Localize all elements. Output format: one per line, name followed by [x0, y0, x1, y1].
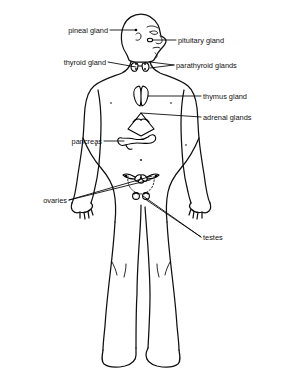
leader-parathyroid-fork	[150, 65, 174, 68]
label-pancreas: pancreas	[72, 137, 103, 146]
right-leg-outer-outline	[167, 222, 179, 350]
ovary-left-dot	[125, 175, 128, 178]
label-ovaries: ovaries	[43, 196, 67, 205]
left-leg-outer-outline	[103, 222, 115, 350]
torso-right-outline	[150, 62, 210, 203]
label-adrenal-glands: adrenal glands	[203, 113, 252, 122]
chest-mark-left	[110, 102, 112, 104]
right-knee-crease-2	[157, 264, 159, 277]
pituitary-gland-organ	[147, 38, 152, 42]
pancreas-tail-detail	[126, 145, 132, 149]
right-arm-inner-outline	[181, 90, 191, 203]
adrenal-glands-organ	[128, 113, 154, 136]
right-knee-crease	[165, 262, 170, 275]
hip-right-outline	[166, 138, 199, 222]
leader-testes-fork	[143, 196, 201, 237]
pancreas-organ	[118, 135, 156, 145]
navel-mark	[140, 159, 142, 161]
eyebrow	[147, 26, 158, 28]
right-leg-inner-outline	[145, 207, 150, 348]
label-thyroid-gland: thyroid gland	[64, 58, 106, 67]
left-knee-crease-2	[124, 264, 126, 277]
label-pineal-gland: pineal gland	[68, 26, 108, 35]
left-knee-crease	[112, 262, 117, 275]
ear-outline	[136, 33, 141, 40]
labels-group: pineal gland pituitary gland thyroid gla…	[43, 26, 252, 242]
label-thymus-gland: thymus gland	[203, 92, 247, 101]
thymus-gland-organ	[134, 86, 149, 106]
crotch-left-outline	[136, 205, 141, 348]
elbow-mark-right	[185, 144, 187, 146]
endocrine-system-figure: pineal gland pituitary gland thyroid gla…	[0, 0, 284, 380]
ovary-right-dot	[155, 175, 158, 178]
leader-adrenal	[141, 113, 201, 117]
label-parathyroid-glands: parathyroid glands	[176, 61, 237, 70]
diagram-canvas: pineal gland pituitary gland thyroid gla…	[0, 0, 284, 380]
label-testes: testes	[203, 233, 223, 242]
left-arm-inner-outline	[91, 90, 101, 203]
right-hand-outline	[189, 203, 211, 219]
leader-parathyroid	[150, 62, 174, 65]
mouth-line	[153, 47, 160, 48]
left-foot-outline	[102, 348, 136, 367]
label-pituitary-gland: pituitary gland	[178, 36, 224, 45]
hip-left-outline	[83, 138, 116, 222]
eye	[150, 31, 158, 34]
head-outline	[121, 14, 166, 62]
left-hand-outline	[71, 203, 93, 219]
right-foot-outline	[146, 348, 180, 367]
chest-mark-right	[170, 102, 172, 104]
